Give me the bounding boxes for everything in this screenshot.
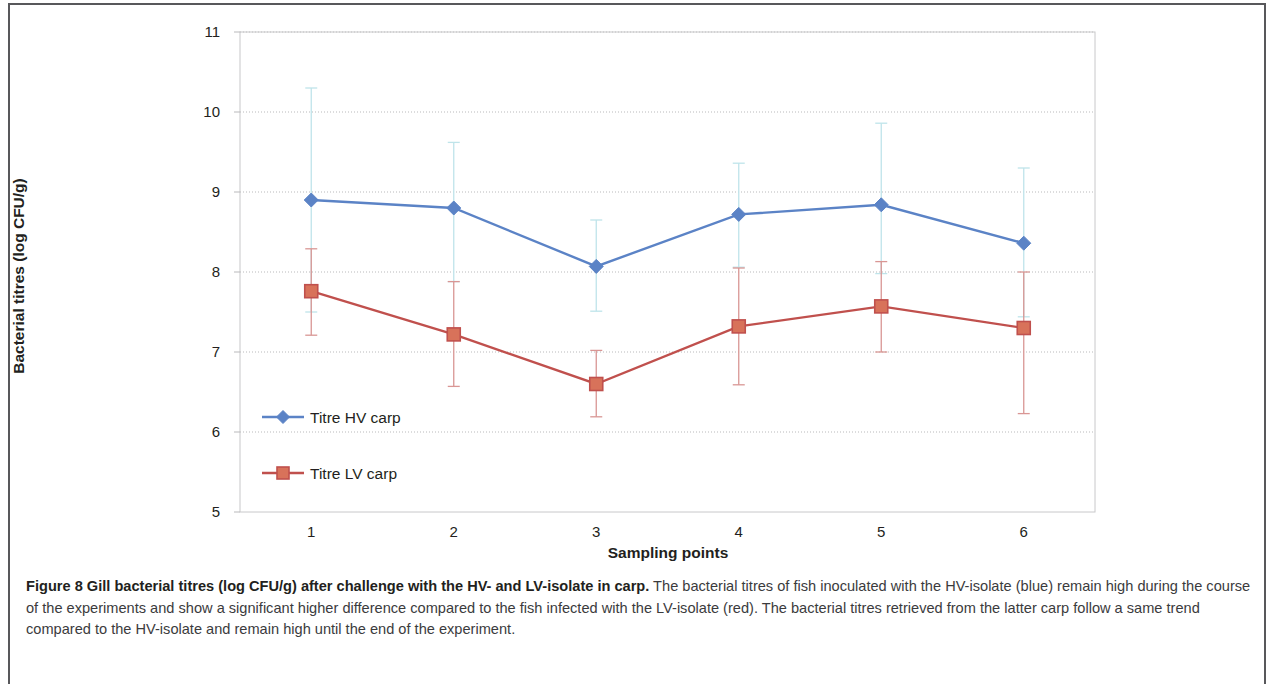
chart-series — [304, 193, 1031, 391]
chart-error-bars — [305, 88, 1030, 417]
x-axis-tick-label: 5 — [877, 523, 885, 540]
y-axis-tick-label: 11 — [204, 23, 220, 40]
data-point-marker — [1017, 322, 1030, 335]
y-axis-tick-label: 6 — [212, 423, 220, 440]
data-point-marker — [447, 328, 460, 341]
y-axis-tick-label: 7 — [212, 343, 220, 360]
data-point-marker — [589, 259, 603, 273]
data-point-marker — [732, 207, 746, 221]
chart-plot: 567891011 123456 Titre HV carpTitre LV c… — [0, 0, 1274, 568]
figure-container: 567891011 123456 Titre HV carpTitre LV c… — [0, 0, 1274, 687]
data-point-marker — [447, 201, 461, 215]
chart-gridlines — [240, 32, 1095, 432]
x-axis-tick-label: 2 — [450, 523, 458, 540]
data-point-marker — [732, 320, 745, 333]
x-axis-tick-label: 1 — [307, 523, 315, 540]
legend-marker — [277, 467, 289, 479]
x-axis-tick-label: 6 — [1020, 523, 1028, 540]
chart-svg: 567891011 123456 Titre HV carpTitre LV c… — [0, 0, 1274, 568]
data-point-marker — [305, 285, 318, 298]
y-axis-tick-label: 8 — [212, 263, 220, 280]
y-axis-tick-label: 5 — [212, 503, 220, 520]
caption-title: Figure 8 Gill bacterial titres (log CFU/… — [26, 578, 649, 594]
y-axis-title: Bacterial titres (log CFU/g) — [10, 178, 27, 374]
x-axis-tick-label: 4 — [735, 523, 743, 540]
data-point-marker — [304, 193, 318, 207]
data-point-marker — [590, 378, 603, 391]
data-point-marker — [875, 300, 888, 313]
x-axis-tick-labels: 123456 — [307, 523, 1028, 540]
data-point-marker — [874, 198, 888, 212]
figure-caption: Figure 8 Gill bacterial titres (log CFU/… — [26, 576, 1254, 641]
y-axis-tick-label: 10 — [203, 103, 220, 120]
y-axis-tick-label: 9 — [212, 183, 220, 200]
legend-label: Titre LV carp — [310, 465, 397, 482]
legend-label: Titre HV carp — [310, 409, 401, 426]
series-line — [311, 200, 1024, 266]
chart-legend: Titre HV carpTitre LV carp — [262, 409, 401, 482]
y-axis-tick-labels: 567891011 — [203, 23, 240, 520]
legend-marker — [277, 411, 290, 424]
x-axis-tick-label: 3 — [592, 523, 600, 540]
data-point-marker — [1017, 236, 1031, 250]
series-line — [311, 291, 1024, 384]
x-axis-title: Sampling points — [608, 544, 729, 561]
